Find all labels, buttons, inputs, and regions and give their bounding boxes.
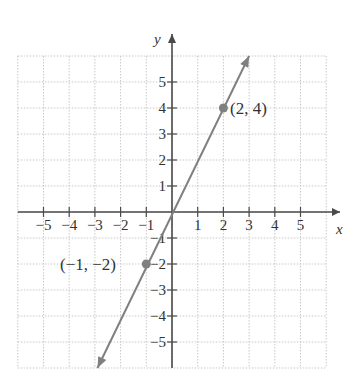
svg-text:−4: −4 <box>61 217 77 233</box>
svg-text:3: 3 <box>245 217 253 233</box>
svg-text:1: 1 <box>159 178 167 194</box>
coordinate-plane: −5−4−3−2−112345−5−4−3−2−112345 x y (2, 4… <box>0 0 344 392</box>
svg-text:4: 4 <box>271 217 279 233</box>
svg-text:−2: −2 <box>113 217 129 233</box>
svg-text:−3: −3 <box>150 282 166 298</box>
point-label-2-4: (2, 4) <box>230 99 267 118</box>
svg-text:4: 4 <box>159 100 167 116</box>
y-axis-label: y <box>152 31 161 47</box>
x-axis-label: x <box>335 221 343 237</box>
svg-text:5: 5 <box>297 217 305 233</box>
svg-text:2: 2 <box>159 152 167 168</box>
svg-text:5: 5 <box>159 74 167 90</box>
svg-text:−2: −2 <box>150 256 166 272</box>
svg-text:−3: −3 <box>87 217 103 233</box>
svg-text:3: 3 <box>159 126 167 142</box>
svg-text:1: 1 <box>194 217 202 233</box>
svg-text:−5: −5 <box>36 217 52 233</box>
svg-text:2: 2 <box>220 217 228 233</box>
svg-text:−4: −4 <box>150 308 166 324</box>
svg-text:−5: −5 <box>150 334 166 350</box>
point-label-neg1-neg2: (−1, −2) <box>60 255 116 274</box>
